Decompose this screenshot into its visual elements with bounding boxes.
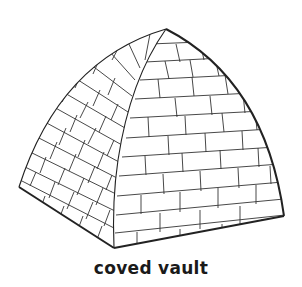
figure-caption: coved vault (0, 258, 302, 278)
coved-vault-drawing (0, 0, 302, 287)
right-face-bricks (115, 42, 285, 248)
figure: coved vault (0, 0, 302, 287)
